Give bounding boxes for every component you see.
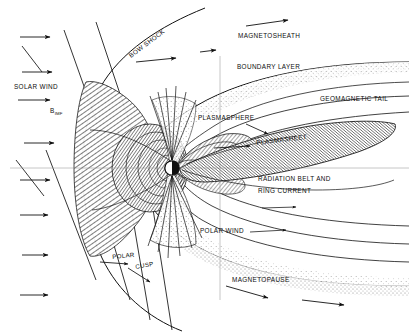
polar-wind-label: POLAR WIND — [200, 228, 244, 235]
earth — [165, 161, 179, 175]
diagram-canvas — [0, 0, 409, 333]
magnetopause-label: MAGNETOPAUSE — [232, 277, 290, 284]
boundary-layer-label: BOUNDARY LAYER — [237, 64, 300, 71]
radiation-belt-label-line1: RADIATION BELT AND — [258, 176, 331, 183]
magnetosphere-diagram: SOLAR WIND BIMF BOW SHOCK MAGNETOSHEATH … — [0, 0, 409, 333]
magnetosheath-label: MAGNETOSHEATH — [238, 33, 300, 40]
solar-wind-arrows — [18, 37, 54, 295]
b-imf-label: BIMF — [50, 108, 63, 117]
geomagnetic-tail-label: GEOMAGNETIC TAIL — [320, 96, 388, 103]
plasmasphere-label: PLASMASPHERE — [198, 115, 254, 122]
solar-wind-label: SOLAR WIND — [14, 84, 58, 91]
radiation-belt-label-line2: RING CURRENT — [258, 188, 311, 195]
b-imf-subscript: IMF — [55, 111, 63, 116]
